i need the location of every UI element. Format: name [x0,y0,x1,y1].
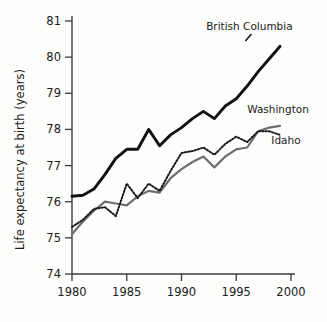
y-axis-ticks: 7475767778798081 [46,14,72,281]
x-tick-label-1990: 1990 [167,285,196,299]
series-inline-labels: British ColumbiaWashingtonIdaho [206,20,309,146]
series-line-washington [72,126,280,234]
y-tick-label-76: 76 [46,195,61,209]
y-tick-label-79: 79 [46,86,61,100]
x-tick-label-1995: 1995 [222,285,251,299]
y-axis-title-label: Life expectancy at birth (years) [13,69,27,250]
life-expectancy-line-chart: Life expectancy at birth (years) 7475767… [0,0,327,322]
series-paths [72,46,280,234]
y-tick-label-77: 77 [46,159,61,173]
y-tick-label-80: 80 [46,50,61,64]
series-label-british-columbia: British Columbia [206,20,293,32]
series-label-washington: Washington [247,103,309,115]
y-axis-title: Life expectancy at birth (years) [13,69,27,250]
x-tick-label-1985: 1985 [112,285,141,299]
y-tick-label-81: 81 [46,14,61,28]
british-columbia-leader-line [245,34,251,41]
series-label-idaho: Idaho [271,134,300,146]
axes [72,16,295,274]
chart-container: Life expectancy at birth (years) 7475767… [0,0,327,322]
y-tick-label-78: 78 [46,122,61,136]
y-tick-label-74: 74 [46,267,61,281]
x-tick-label-1980: 1980 [57,285,86,299]
x-axis-ticks: 19801985199019952000 [57,274,305,299]
leader-lines [245,34,251,41]
x-tick-label-2000: 2000 [276,285,305,299]
y-tick-label-75: 75 [46,231,61,245]
